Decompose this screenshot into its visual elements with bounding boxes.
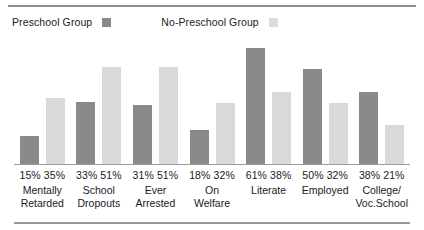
dark-gray-swatch-icon bbox=[102, 18, 111, 27]
group-category-name: Ever bbox=[127, 184, 183, 197]
x-axis-group-label: 18% 32%OnWelfare bbox=[184, 169, 240, 209]
group-percent-values: 50% 32% bbox=[297, 169, 353, 182]
bar bbox=[46, 98, 65, 165]
group-category-name-line2: Dropouts bbox=[71, 197, 127, 210]
legend-label-no-preschool-group: No-Preschool Group bbox=[161, 16, 259, 28]
x-axis-group-label: 15% 35%MentallyRetarded bbox=[14, 169, 70, 209]
group-category-name: Literate bbox=[241, 184, 297, 197]
group-percent-values: 31% 51% bbox=[127, 169, 183, 182]
group-category-name: School bbox=[71, 184, 127, 197]
group-category-name: Mentally bbox=[14, 184, 70, 197]
bar bbox=[303, 69, 322, 165]
bar bbox=[359, 92, 378, 165]
x-axis-group-label: 61% 38%Literate bbox=[241, 169, 297, 197]
x-axis-labels: 15% 35%MentallyRetarded33% 51%SchoolDrop… bbox=[14, 169, 410, 217]
bar-group bbox=[20, 40, 65, 165]
group-category-name-line2: Arrested bbox=[127, 197, 183, 210]
bar-chart-figure: Preschool Group No-Preschool Group 15% 3… bbox=[0, 0, 424, 230]
bar bbox=[76, 102, 95, 165]
bar bbox=[272, 92, 291, 165]
plot-area bbox=[14, 40, 410, 165]
bar bbox=[190, 130, 209, 165]
group-category-name: On bbox=[184, 184, 240, 197]
x-axis-group-label: 33% 51%SchoolDropouts bbox=[71, 169, 127, 209]
group-category-name-line2: Voc.School bbox=[354, 197, 410, 210]
bar bbox=[385, 125, 404, 165]
group-category-name: Employed bbox=[297, 184, 353, 197]
chart-legend: Preschool Group No-Preschool Group bbox=[12, 15, 278, 29]
x-axis-group-label: 31% 51%EverArrested bbox=[127, 169, 183, 209]
group-percent-values: 61% 38% bbox=[241, 169, 297, 182]
x-axis-group-label: 50% 32%Employed bbox=[297, 169, 353, 197]
bar bbox=[20, 136, 39, 165]
bar bbox=[329, 103, 348, 165]
bar-group bbox=[133, 40, 178, 165]
bar-group bbox=[76, 40, 121, 165]
group-category-name-line2: Welfare bbox=[184, 197, 240, 210]
group-category-name: College/ bbox=[354, 184, 410, 197]
legend-item-preschool-group: Preschool Group bbox=[12, 16, 111, 28]
x-axis-group-label: 38% 21%College/Voc.School bbox=[354, 169, 410, 209]
light-gray-swatch-icon bbox=[269, 18, 278, 27]
x-axis-baseline bbox=[14, 164, 410, 165]
bar-group bbox=[190, 40, 235, 165]
bar bbox=[159, 67, 178, 165]
bottom-divider-rule bbox=[14, 222, 410, 224]
legend-label-preschool-group: Preschool Group bbox=[12, 16, 92, 28]
bar bbox=[246, 48, 265, 165]
group-category-name-line2: Retarded bbox=[14, 197, 70, 210]
bar-group bbox=[246, 40, 291, 165]
group-percent-values: 33% 51% bbox=[71, 169, 127, 182]
bar bbox=[133, 105, 152, 165]
bar bbox=[216, 103, 235, 165]
bar bbox=[102, 67, 121, 165]
group-percent-values: 38% 21% bbox=[354, 169, 410, 182]
bar-group bbox=[359, 40, 404, 165]
group-percent-values: 15% 35% bbox=[14, 169, 70, 182]
group-percent-values: 18% 32% bbox=[184, 169, 240, 182]
top-divider-rule bbox=[8, 5, 416, 7]
bar-group bbox=[303, 40, 348, 165]
legend-item-no-preschool-group: No-Preschool Group bbox=[161, 16, 278, 28]
